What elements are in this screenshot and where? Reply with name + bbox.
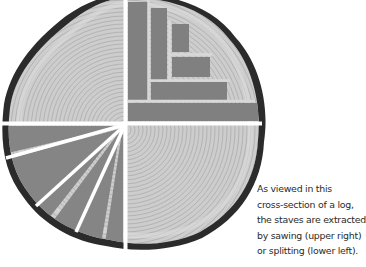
caption-line-5: or splitting (lower left). [257,243,366,259]
caption-line-1: As viewed in this [257,181,366,197]
caption-line-4: by sawing (upper right) [257,228,366,244]
caption-line-3: the staves are extracted [257,212,366,228]
caption-line-2: cross-section of a log, [257,197,366,213]
caption: As viewed in this cross-section of a log… [257,181,366,259]
